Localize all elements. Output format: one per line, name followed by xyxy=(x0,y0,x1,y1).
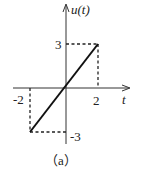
y-axis-label: u(t) xyxy=(71,2,90,17)
figure-caption: （a） xyxy=(45,153,77,168)
tick-y-pos: 3 xyxy=(55,37,62,52)
signal-diagram: u(t) t 3 -3 2 -2 （a） xyxy=(0,0,159,175)
tick-x-pos: 2 xyxy=(93,93,100,108)
tick-y-neg: -3 xyxy=(70,129,81,144)
tick-x-neg: -2 xyxy=(13,92,24,107)
x-axis-label: t xyxy=(122,92,126,107)
